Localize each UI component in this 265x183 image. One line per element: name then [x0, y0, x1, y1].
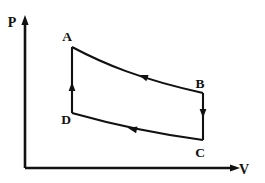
state-point-label-D: D	[61, 112, 71, 127]
axes-group	[21, 15, 240, 172]
process-arrowhead-DC	[127, 125, 137, 134]
state-point-label-A: A	[62, 29, 72, 44]
process-BC	[200, 93, 207, 140]
pressure-axis-arrowhead	[21, 15, 28, 25]
pressure-axis-label: P	[8, 15, 17, 30]
process-path-AB	[72, 47, 203, 93]
process-DA	[69, 47, 76, 113]
state-point-label-B: B	[195, 76, 204, 91]
process-arrowhead-DA	[69, 82, 76, 91]
volume-axis-label: V	[239, 162, 249, 177]
process-AB	[72, 47, 203, 93]
process-arrowhead-BC	[200, 109, 207, 118]
pv-diagram-figure: P V ABCD	[0, 0, 265, 183]
state-point-label-C: C	[195, 145, 205, 160]
state-point-labels-group: ABCD	[61, 29, 205, 160]
process-DC	[72, 113, 203, 140]
process-path-DC	[72, 113, 203, 140]
pv-diagram-canvas: P V ABCD	[0, 0, 265, 183]
cycle-processes-group	[69, 47, 207, 140]
